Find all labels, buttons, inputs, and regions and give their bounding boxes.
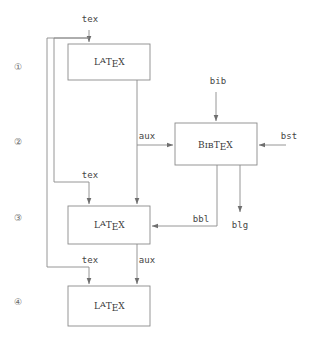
latex-logo-1: LATEX bbox=[94, 56, 125, 70]
diagram-canvas: LATEX BIBTEX LATEX LATEX bbox=[0, 0, 313, 342]
box-labels: LATEX BIBTEX LATEX LATEX bbox=[94, 56, 233, 314]
step-number-3: ③ bbox=[14, 213, 22, 223]
bibtex-ib: IB bbox=[205, 141, 214, 150]
edge-label-tex-input: tex bbox=[82, 14, 99, 24]
svg-text:BIBTEX: BIBTEX bbox=[198, 140, 233, 152]
edge-label-aux-2: aux bbox=[139, 255, 156, 265]
step-number-2: ② bbox=[14, 137, 22, 147]
edge-label-tex-4: tex bbox=[82, 255, 99, 265]
step-number-1: ① bbox=[14, 62, 22, 72]
edge-label-blg: blg bbox=[232, 220, 248, 230]
svg-text:LATEX: LATEX bbox=[94, 56, 125, 70]
latex-e-1: E bbox=[112, 59, 119, 69]
svg-text:LATEX: LATEX bbox=[94, 300, 125, 314]
latex-e-4: E bbox=[112, 303, 119, 313]
svg-text:LATEX: LATEX bbox=[94, 219, 125, 233]
step-numbers: ① ② ③ ④ bbox=[14, 62, 22, 307]
latex-x-1: X bbox=[118, 57, 125, 67]
latex-logo-3: LATEX bbox=[94, 219, 125, 233]
edge-label-bst: bst bbox=[281, 131, 297, 141]
latex-x-4: X bbox=[118, 301, 125, 311]
step-number-4: ④ bbox=[14, 297, 22, 307]
latex-x-3: X bbox=[118, 220, 125, 230]
bibtex-logo: BIBTEX bbox=[198, 140, 233, 152]
bibtex-e: E bbox=[220, 142, 227, 152]
latex-logo-4: LATEX bbox=[94, 300, 125, 314]
edge-label-aux-1: aux bbox=[139, 131, 156, 141]
bibtex-x: X bbox=[226, 140, 233, 150]
edge-label-bib: bib bbox=[210, 76, 226, 86]
edge-label-tex-3: tex bbox=[82, 170, 99, 180]
edge-label-bbl: bbl bbox=[193, 214, 209, 224]
latex-e-3: E bbox=[112, 222, 119, 232]
workflow-diagram: LATEX BIBTEX LATEX LATEX bbox=[0, 0, 313, 342]
